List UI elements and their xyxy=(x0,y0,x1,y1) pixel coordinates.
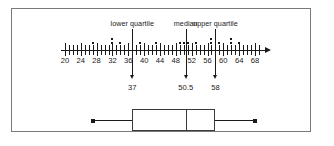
axis-tick-36 xyxy=(128,43,129,56)
axis-tick-28 xyxy=(97,43,98,56)
axis-tick-69 xyxy=(259,45,260,55)
figure-frame: 20242832364044485256606468lower quartile… xyxy=(11,8,311,132)
axis-tick-42 xyxy=(152,45,153,55)
axis-tick-67 xyxy=(251,45,252,55)
axis-tick-54 xyxy=(200,45,201,55)
axis-tick-21 xyxy=(69,45,70,55)
axis-tick-35 xyxy=(124,45,125,55)
data-dot-34-1 xyxy=(119,42,121,44)
axis-tick-66 xyxy=(247,45,248,55)
axis-tick-48 xyxy=(176,43,177,56)
callout-label-upper-quartile: upper quartile xyxy=(170,20,260,28)
axis-tick-64 xyxy=(239,43,240,56)
axis-tick-33 xyxy=(116,45,117,55)
axis-tick-25 xyxy=(85,45,86,55)
box-median-line xyxy=(186,109,187,131)
axis-tick-40 xyxy=(144,43,145,56)
data-dot-27-1 xyxy=(92,42,94,44)
callout-stem-top-lower-quartile xyxy=(132,29,133,50)
data-dot-51-1 xyxy=(187,42,189,44)
axis-tick-43 xyxy=(156,45,157,55)
data-dot-32-2 xyxy=(111,38,113,40)
axis-tick-52 xyxy=(192,43,193,56)
axis-tick-26 xyxy=(89,45,90,55)
axis-tick-60 xyxy=(223,43,224,56)
axis-tick-51 xyxy=(188,45,189,55)
axis-tick-32 xyxy=(112,43,113,56)
data-dot-64-1 xyxy=(238,42,240,44)
axis-tick-65 xyxy=(243,45,244,55)
axis-tick-61 xyxy=(227,45,228,55)
axis-tick-50 xyxy=(184,45,185,55)
number-line xyxy=(61,50,265,51)
axis-tick-label-68: 68 xyxy=(244,57,266,65)
axis-arrow-icon xyxy=(265,47,271,53)
axis-tick-23 xyxy=(77,45,78,55)
data-dot-43-1 xyxy=(155,42,157,44)
axis-tick-30 xyxy=(105,45,106,55)
callout-arrow-icon-lower-quartile xyxy=(130,75,134,79)
whisker-endpoint-max xyxy=(253,119,257,123)
callout-stem-bottom-upper-quartile xyxy=(215,51,216,75)
axis-tick-22 xyxy=(73,45,74,55)
axis-tick-68 xyxy=(255,43,256,56)
axis-tick-47 xyxy=(172,45,173,55)
axis-tick-45 xyxy=(164,45,165,55)
data-dot-59-1 xyxy=(218,42,220,44)
callout-value-lower-quartile: 37 xyxy=(112,84,152,92)
whisker-endpoint-min xyxy=(91,119,95,123)
callout-stem-top-upper-quartile xyxy=(215,29,216,50)
callout-stem-bottom-lower-quartile xyxy=(132,51,133,75)
axis-tick-34 xyxy=(120,45,121,55)
axis-tick-27 xyxy=(93,45,94,55)
callout-value-upper-quartile: 58 xyxy=(195,84,235,92)
axis-tick-44 xyxy=(160,43,161,56)
axis-tick-62 xyxy=(231,45,232,55)
axis-tick-57 xyxy=(211,45,212,55)
callout-arrow-icon-upper-quartile xyxy=(213,75,217,79)
data-dot-62-2 xyxy=(230,38,232,40)
data-dot-32-1 xyxy=(111,42,113,44)
axis-tick-24 xyxy=(81,43,82,56)
callout-stem-bottom-median xyxy=(186,51,187,75)
axis-tick-31 xyxy=(109,45,110,55)
axis-tick-29 xyxy=(101,45,102,55)
axis-tick-53 xyxy=(196,45,197,55)
callout-stem-top-median xyxy=(186,29,187,50)
axis-tick-38 xyxy=(136,45,137,55)
callout-arrow-icon-median xyxy=(184,75,188,79)
axis-tick-59 xyxy=(219,45,220,55)
whisker-right xyxy=(215,120,255,121)
data-dot-57-1 xyxy=(210,42,212,44)
axis-tick-55 xyxy=(204,45,205,55)
data-dot-50-1 xyxy=(183,42,185,44)
data-dot-62-1 xyxy=(230,42,232,44)
axis-tick-39 xyxy=(140,45,141,55)
axis-tick-46 xyxy=(168,45,169,55)
whisker-left xyxy=(93,120,133,121)
data-dot-49-1 xyxy=(179,42,181,44)
box-iqr xyxy=(132,109,215,131)
axis-tick-20 xyxy=(65,43,66,56)
data-dot-57-2 xyxy=(210,38,212,40)
axis-tick-63 xyxy=(235,45,236,55)
axis-tick-56 xyxy=(208,43,209,56)
data-dot-53-1 xyxy=(195,42,197,44)
figure-stage: 20242832364044485256606468lower quartile… xyxy=(12,9,312,133)
axis-tick-49 xyxy=(180,45,181,55)
axis-tick-41 xyxy=(148,45,149,55)
data-dot-39-1 xyxy=(139,42,141,44)
